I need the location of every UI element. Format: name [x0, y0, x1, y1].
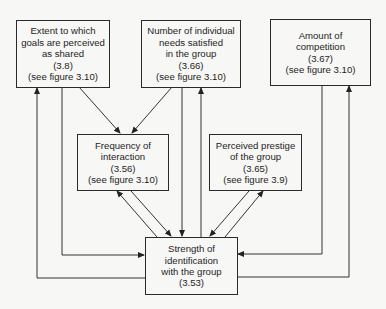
node-value: (3.67) — [308, 53, 333, 64]
node-value: (3.56) — [110, 163, 135, 174]
node-label: with the group — [161, 266, 221, 277]
node-label: of the group — [230, 151, 281, 162]
node-label: goals are perceived — [21, 37, 105, 48]
node-value: (3.66) — [178, 60, 203, 71]
edge-prestige-to-identification — [210, 191, 249, 236]
node-interaction: Frequency of interaction (3.56) (see fig… — [77, 134, 169, 191]
node-label: Strength of — [168, 243, 215, 254]
node-competition: Amount of competition (3.67) (see figure… — [270, 19, 371, 86]
node-prestige: Perceived prestige of the group (3.65) (… — [209, 134, 302, 191]
edge-identification-to-prestige — [225, 191, 263, 237]
node-value: (3.53) — [179, 277, 204, 288]
node-label: Extent to which — [30, 25, 95, 36]
node-needs-satisfied: Number of individual needs satisfied in … — [141, 20, 241, 88]
node-identification: Strength of identification with the grou… — [145, 237, 238, 295]
node-reference: (see figure 3.10) — [88, 174, 158, 185]
node-reference: (see figure 3.10) — [286, 64, 356, 75]
edge-goals-to-interaction — [79, 87, 120, 133]
node-label: competition — [296, 41, 345, 52]
node-value: (3.8) — [53, 60, 73, 71]
node-label: identification — [165, 255, 218, 266]
node-value: (3.65) — [243, 163, 268, 174]
node-label: Perceived prestige — [216, 140, 295, 151]
node-label: in the group — [166, 48, 217, 59]
node-label: Frequency of — [95, 140, 151, 151]
node-goals-shared: Extent to which goals are perceived as s… — [16, 20, 110, 88]
node-label: interaction — [101, 151, 145, 162]
node-label: Amount of — [299, 30, 343, 41]
node-reference: (see figure 3.10) — [156, 71, 226, 82]
edge-needs-to-interaction — [132, 87, 172, 133]
node-label: as shared — [42, 48, 84, 59]
node-label: needs satisfied — [159, 37, 223, 48]
node-reference: (see figure 3.10) — [28, 71, 98, 82]
node-label: Number of individual — [147, 25, 234, 36]
node-reference: (see figure 3.9) — [223, 174, 288, 185]
